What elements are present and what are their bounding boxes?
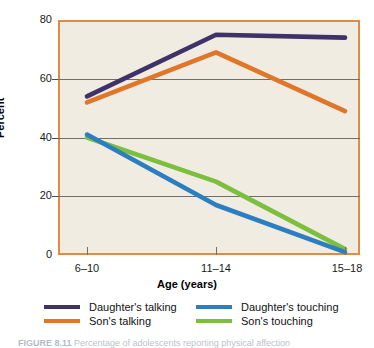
ytick-label-20: 20 [8, 189, 52, 201]
xtick-label-6-10: 6–10 [75, 262, 99, 274]
figure-caption: FIGURE 8.11 Percentage of adolescents re… [18, 338, 290, 348]
legend-swatch-daughters-touching [196, 305, 232, 309]
legend-label-sons-touching: Son's touching [241, 315, 313, 327]
legend-label-daughters-talking: Daughter's talking [89, 301, 177, 313]
legend-item-sons-touching: Son's touching [196, 315, 348, 327]
line-sons-talking [87, 52, 345, 111]
legend-swatch-daughters-talking [44, 305, 80, 309]
legend-item-daughters-touching: Daughter's touching [196, 301, 348, 313]
legend-swatch-sons-talking [44, 319, 80, 323]
legend-label-sons-talking: Son's talking [89, 315, 151, 327]
legend-item-sons-talking: Son's talking [44, 315, 196, 327]
xtick-label-11-14: 11–14 [201, 262, 231, 274]
chart-legend: Daughter's talking Daughter's touching S… [44, 300, 364, 328]
ytick-label-0: 0 [8, 248, 52, 260]
plot-area [58, 20, 360, 255]
legend-row: Son's talking Son's touching [44, 314, 364, 328]
xtick-label-15-18: 15–18 [332, 262, 363, 274]
xtick-mark-6-10 [87, 247, 88, 255]
ytick-label-60: 60 [8, 72, 52, 84]
legend-swatch-sons-touching [196, 319, 232, 323]
figure-number: FIGURE 8.11 [18, 338, 72, 348]
y-axis-label: Percent [0, 98, 6, 138]
series-lines [58, 20, 360, 255]
xtick-mark-15-18 [345, 247, 346, 255]
ytick-mark-20 [52, 196, 58, 197]
figure-caption-text: Percentage of adolescents reporting phys… [74, 338, 290, 348]
ytick-label-40: 40 [8, 131, 52, 143]
legend-row: Daughter's talking Daughter's touching [44, 300, 364, 314]
xtick-mark-11-14 [216, 247, 217, 255]
ytick-mark-40 [52, 138, 58, 139]
ytick-mark-60 [52, 79, 58, 80]
x-axis-label: Age (years) [0, 278, 374, 290]
legend-item-daughters-talking: Daughter's talking [44, 301, 196, 313]
ytick-label-80: 80 [8, 13, 52, 25]
legend-label-daughters-touching: Daughter's touching [241, 301, 339, 313]
